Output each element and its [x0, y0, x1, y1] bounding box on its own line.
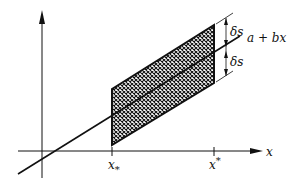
delta-upper-label: δs — [230, 25, 243, 39]
x-upper-label: x* — [209, 155, 221, 172]
x-upper-superscript: * — [216, 155, 221, 166]
regression-line — [18, 36, 240, 174]
x-lower-label: x* — [108, 158, 120, 175]
y-axis-arrow-icon — [39, 10, 45, 24]
delta-dimension — [216, 13, 233, 82]
line-equation-label: a + bx — [247, 31, 287, 45]
y-axis — [39, 10, 45, 178]
x-lower-subscript: * — [115, 164, 120, 175]
x-axis-label: x — [266, 145, 273, 159]
arrow-up-icon — [224, 18, 228, 25]
arrow-up-icon — [224, 51, 228, 58]
x-axis-arrow-icon — [250, 148, 263, 154]
regression-band-diagram: δs δs a + bx x x* x* — [0, 0, 297, 187]
confidence-band — [112, 25, 214, 145]
delta-lower-label: δs — [230, 55, 243, 69]
